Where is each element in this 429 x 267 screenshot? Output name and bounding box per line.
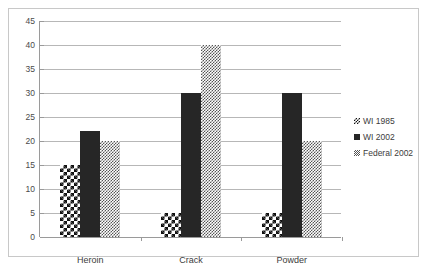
chart-legend: WI 1985WI 2002Federal 2002 [354, 113, 416, 161]
x-tick-label-powder: Powder [276, 255, 307, 265]
legend-swatch-icon-0 [354, 118, 360, 124]
y-tick-label-5: 5 [9, 208, 35, 218]
bar-groups [40, 21, 341, 237]
legend-label: WI 2002 [363, 132, 395, 142]
bar-powder-federal-2002 [302, 141, 322, 237]
y-tick-label-45: 45 [9, 16, 35, 26]
bar-crack-federal-2002 [201, 45, 221, 237]
y-tick-label-30: 30 [9, 88, 35, 98]
bar-group-crack [161, 21, 221, 237]
y-tick-label-10: 10 [9, 184, 35, 194]
legend-swatch-icon-1 [354, 134, 360, 140]
legend-item-federal-2002[interactable]: Federal 2002 [354, 145, 416, 161]
y-tick-label-0: 0 [9, 232, 35, 242]
bar-group-heroin [60, 21, 120, 237]
y-tick-label-15: 15 [9, 160, 35, 170]
x-tick-label-crack: Crack [179, 255, 203, 265]
y-tick-label-25: 25 [9, 112, 35, 122]
y-tick-label-20: 20 [9, 136, 35, 146]
chart-frame: 051015202530354045 HeroinCrackPowder WI … [8, 8, 419, 257]
legend-label: WI 1985 [363, 116, 395, 126]
x-tick-mark-1 [141, 237, 142, 241]
legend-label: Federal 2002 [363, 148, 413, 158]
bar-heroin-wi-2002 [80, 131, 100, 237]
y-tick-label-40: 40 [9, 40, 35, 50]
legend-swatch-icon-2 [354, 150, 360, 156]
x-tick-mark-2 [241, 237, 242, 241]
bar-crack-wi-2002 [181, 93, 201, 237]
bar-powder-wi-2002 [282, 93, 302, 237]
bar-heroin-federal-2002 [100, 141, 120, 237]
y-tick-mark-0 [40, 237, 44, 238]
x-tick-label-heroin: Heroin [77, 255, 104, 265]
x-tick-mark-3 [342, 237, 343, 241]
gridline-0 [40, 237, 341, 238]
legend-item-wi-2002[interactable]: WI 2002 [354, 129, 416, 145]
bar-crack-wi-1985 [161, 213, 181, 237]
y-tick-label-35: 35 [9, 64, 35, 74]
plot-area: HeroinCrackPowder [39, 21, 341, 237]
bar-heroin-wi-1985 [60, 165, 80, 237]
bar-group-powder [262, 21, 322, 237]
y-axis-tick-labels: 051015202530354045 [9, 21, 35, 237]
bar-powder-wi-1985 [262, 213, 282, 237]
legend-item-wi-1985[interactable]: WI 1985 [354, 113, 416, 129]
